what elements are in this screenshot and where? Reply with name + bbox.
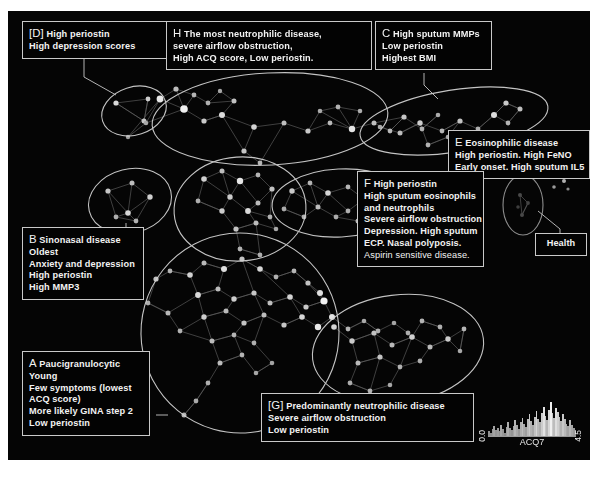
annotation-b-line2: Oldest [29, 247, 137, 259]
cluster-ellipse-h [150, 67, 390, 171]
annotation-key-c: C [382, 27, 390, 39]
annotation-f-line1: High periostin [374, 179, 437, 189]
annotation-e-line1: Eosinophilic disease [465, 138, 558, 148]
annotation-a-line1: Paucigranulocytic [39, 359, 120, 369]
cluster-ellipse-health [503, 175, 543, 235]
annotation-b-line1: Sinonasal disease [39, 235, 120, 245]
leader-line-d [84, 55, 116, 95]
annotation-key-h: H [173, 27, 181, 39]
annotation-box-h[interactable]: H The most neutrophilic disease, severe … [166, 21, 372, 70]
annotation-box-f[interactable]: F High periostin High sputum eosinophils… [357, 171, 484, 267]
annotation-f-line7: Aspirin sensitive disease. [364, 250, 477, 262]
annotation-h-line3: High ACQ score, Low periostin. [173, 53, 365, 65]
legend-label: ACQ7 [488, 437, 576, 447]
annotation-f-line5: Depression. High sputum [364, 226, 477, 238]
annotation-box-b[interactable]: B Sinonasal disease Oldest Anxiety and d… [22, 227, 144, 300]
annotation-a-line4: ACQ score) [29, 394, 143, 406]
annotation-g-line2: Severe airflow obstruction [268, 413, 467, 425]
leader-lines [84, 55, 560, 415]
annotation-h-line1: The most neutrophilic disease, [184, 29, 322, 39]
annotation-box-d[interactable]: [D] High periostin High depression score… [22, 21, 168, 59]
annotation-b-line3: Anxiety and depression [29, 259, 137, 271]
annotation-g-line3: Low periostin [268, 425, 467, 437]
annotation-g-line1: Predominantly neutrophilic disease [286, 401, 445, 411]
legend-min-tick: 0.0 [477, 430, 487, 442]
annotation-box-g[interactable]: [G] Predominantly neutrophilic disease S… [261, 393, 474, 442]
annotation-f-line4: Severe airflow obstruction [364, 214, 477, 226]
annotation-key-d: [D] [29, 27, 44, 39]
annotation-key-g: [G] [268, 399, 284, 411]
annotation-c-line3: Highest BMI [382, 53, 485, 65]
annotation-a-line3: Few symptoms (lowest [29, 383, 143, 395]
annotation-e-line2: High periostin. High FeNO [455, 150, 583, 162]
annotation-box-a[interactable]: A Paucigranulocytic Young Few symptoms (… [22, 351, 150, 436]
annotation-c-line2: Low periostin [382, 41, 485, 53]
cluster-ellipse-d [95, 78, 173, 144]
annotation-a-line2: Young [29, 371, 143, 383]
figure-root: [D] High periostin High depression score… [0, 0, 600, 477]
annotation-health-label: Health [542, 238, 580, 250]
annotation-c-line1: High sputum MMPs [393, 29, 480, 39]
legend-colorbar: 0.0 4.5 ACQ7 [474, 400, 584, 456]
annotation-b-line5: High MMP3 [29, 282, 137, 294]
annotation-box-health[interactable]: Health [535, 233, 587, 256]
annotation-h-line2: severe airflow obstruction, [173, 41, 365, 53]
annotation-b-line4: High periostin [29, 270, 137, 282]
annotation-a-line6: Low periostin [29, 418, 143, 430]
annotation-key-b: B [29, 233, 37, 245]
annotation-f-line3: and neutrophils [364, 203, 477, 215]
annotation-a-line5: More likely GINA step 2 [29, 406, 143, 418]
annotation-key-a: A [29, 357, 37, 369]
network-plot-canvas: [D] High periostin High depression score… [8, 11, 590, 460]
annotation-key-e: E [455, 136, 463, 148]
annotation-f-line6: ECP. Nasal polyposis. [364, 238, 461, 248]
legend-histogram [488, 400, 576, 436]
annotation-f-line2: High sputum eosinophils [364, 191, 477, 203]
annotation-key-f: F [364, 177, 371, 189]
annotation-d-line2: High depression scores [29, 41, 161, 53]
annotation-d-line1: High periostin [47, 29, 110, 39]
annotation-box-c[interactable]: C High sputum MMPs Low periostin Highest… [375, 21, 492, 70]
